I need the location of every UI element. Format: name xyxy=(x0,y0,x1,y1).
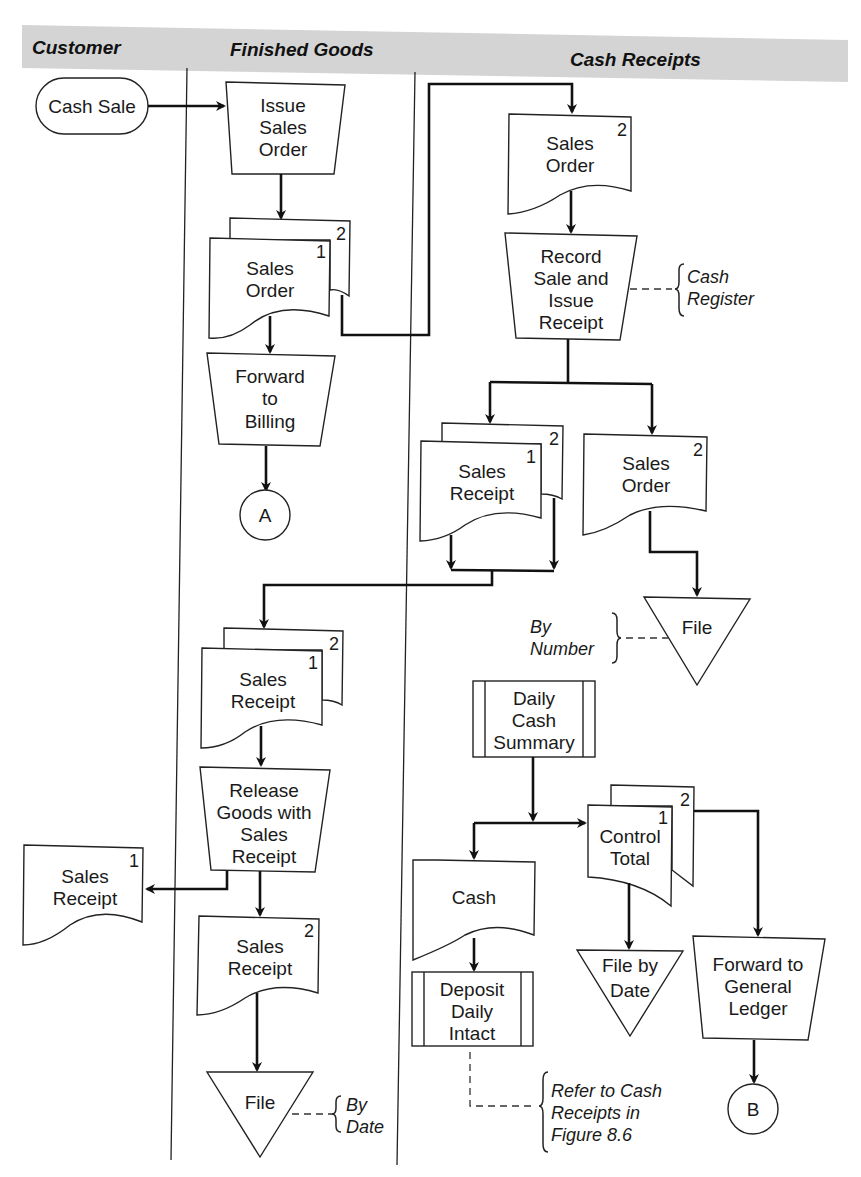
sales-receipt-customer-copy[interactable]: 1 Sales Receipt xyxy=(23,845,143,945)
svg-text:Receipt: Receipt xyxy=(228,958,293,979)
svg-text:File: File xyxy=(682,617,713,638)
svg-text:Ledger: Ledger xyxy=(728,998,788,1019)
svg-text:Sales: Sales xyxy=(622,453,670,474)
svg-text:2: 2 xyxy=(693,440,703,460)
svg-text:Receipt: Receipt xyxy=(231,691,296,712)
lane-title-cash-receipts: Cash Receipts xyxy=(570,49,701,70)
annotation-by-date-line1: By xyxy=(346,1095,368,1115)
annotation-refer-line3: Figure 8.6 xyxy=(551,1125,633,1145)
svg-text:General: General xyxy=(724,976,792,997)
svg-text:Order: Order xyxy=(246,280,295,301)
svg-text:Sales: Sales xyxy=(546,133,594,154)
svg-text:Cash: Cash xyxy=(452,887,496,908)
annotation-by-number-line2: Number xyxy=(530,639,595,659)
svg-text:1: 1 xyxy=(316,242,326,262)
sales-receipt-documents-fg[interactable]: 2 1 Sales Receipt xyxy=(201,628,343,748)
svg-text:Sales: Sales xyxy=(259,117,307,138)
svg-text:File: File xyxy=(245,1092,276,1113)
annotation-refer-line1: Refer to Cash xyxy=(551,1081,662,1101)
sales-receipt-documents-cr[interactable]: 2 1 Sales Receipt xyxy=(420,423,563,541)
cash-sale-terminal[interactable]: Cash Sale xyxy=(36,78,148,134)
svg-text:A: A xyxy=(259,505,272,526)
flow-arrow-to-customer xyxy=(147,871,227,889)
svg-text:1: 1 xyxy=(526,447,536,467)
flow-arrow-to-general-ledger xyxy=(694,811,758,935)
forward-to-billing-process[interactable]: Forward to Billing xyxy=(207,353,335,446)
flow-split-line xyxy=(490,382,652,384)
lane-title-finished-goods: Finished Goods xyxy=(230,39,374,60)
svg-text:B: B xyxy=(747,1099,760,1120)
annotation-line xyxy=(470,1052,536,1106)
annotation-brace xyxy=(675,264,684,316)
svg-text:Sales: Sales xyxy=(61,866,109,887)
annotation-refer-line2: Receipts in xyxy=(551,1103,640,1123)
svg-text:Issue: Issue xyxy=(260,95,305,116)
svg-text:Forward: Forward xyxy=(235,366,305,387)
forward-to-general-ledger-process[interactable]: Forward to General Ledger xyxy=(693,936,825,1040)
off-page-connector-a[interactable]: A xyxy=(240,490,290,540)
svg-text:Receipt: Receipt xyxy=(450,483,515,504)
svg-text:1: 1 xyxy=(308,653,318,673)
release-goods-process[interactable]: Release Goods with Sales Receipt xyxy=(200,767,330,872)
svg-text:Sale and: Sale and xyxy=(533,268,608,289)
flow-arrow-sales-receipt-to-finished-goods xyxy=(264,570,492,627)
svg-text:2: 2 xyxy=(549,429,559,449)
svg-text:Sales: Sales xyxy=(239,669,287,690)
off-page-connector-b[interactable]: B xyxy=(728,1084,778,1134)
svg-text:to: to xyxy=(262,388,278,409)
lane-title-customer: Customer xyxy=(32,37,122,58)
annotation-brace xyxy=(612,613,621,663)
issue-sales-order-process[interactable]: Issue Sales Order xyxy=(226,82,345,174)
svg-text:Cash: Cash xyxy=(512,710,556,731)
sales-order-copy2-doc-b[interactable]: 2 Sales Order xyxy=(583,434,707,535)
control-total-documents[interactable]: 2 1 Control Total xyxy=(588,785,694,906)
svg-text:2: 2 xyxy=(304,921,314,941)
svg-text:Sales: Sales xyxy=(246,258,294,279)
deposit-daily-intact-predefined-process[interactable]: Deposit Daily Intact xyxy=(412,972,533,1046)
svg-text:1: 1 xyxy=(129,851,139,871)
svg-text:Record: Record xyxy=(540,246,601,267)
annotation-brace xyxy=(332,1096,341,1132)
annotation-cash-register-line1: Cash xyxy=(687,267,729,287)
svg-text:2: 2 xyxy=(617,120,627,140)
flowchart-canvas: Customer Finished Goods Cash Receipts Ca… xyxy=(0,0,861,1177)
svg-text:Daily: Daily xyxy=(513,688,556,709)
svg-text:2: 2 xyxy=(680,790,690,810)
svg-text:Control: Control xyxy=(599,826,660,847)
record-sale-issue-receipt-process[interactable]: Record Sale and Issue Receipt xyxy=(505,233,637,340)
svg-text:Order: Order xyxy=(259,139,308,160)
svg-text:Receipt: Receipt xyxy=(539,312,604,333)
svg-text:1: 1 xyxy=(658,808,668,828)
annotation-by-number-line1: By xyxy=(530,617,552,637)
svg-text:Forward to: Forward to xyxy=(713,954,804,975)
svg-text:Goods with: Goods with xyxy=(216,802,311,823)
sales-order-documents[interactable]: 2 1 Sales Order xyxy=(209,218,350,338)
flow-arrow xyxy=(650,511,697,595)
svg-text:File by: File by xyxy=(602,955,658,976)
annotation-cash-register-line2: Register xyxy=(687,289,755,309)
file-by-number[interactable]: File xyxy=(644,597,750,685)
svg-text:Sales: Sales xyxy=(236,936,284,957)
lane-divider-customer-finished-goods xyxy=(171,68,187,1160)
svg-text:Billing: Billing xyxy=(245,411,296,432)
svg-text:Order: Order xyxy=(546,155,595,176)
svg-text:Intact: Intact xyxy=(449,1023,496,1044)
svg-text:Receipt: Receipt xyxy=(53,888,118,909)
svg-text:Sales: Sales xyxy=(240,824,288,845)
annotation-brace xyxy=(539,1072,548,1152)
svg-text:Date: Date xyxy=(610,980,650,1001)
lane-header-band: Customer Finished Goods Cash Receipts xyxy=(22,25,848,82)
svg-text:Daily: Daily xyxy=(451,1001,494,1022)
sales-order-copy2-doc[interactable]: 2 Sales Order xyxy=(508,114,631,214)
annotation-by-date-line2: Date xyxy=(346,1117,384,1137)
svg-text:Total: Total xyxy=(610,848,650,869)
svg-text:Summary: Summary xyxy=(493,732,575,753)
svg-text:Issue: Issue xyxy=(548,290,593,311)
flow-merge-line xyxy=(451,570,554,571)
svg-text:Receipt: Receipt xyxy=(232,846,297,867)
file-by-date-cr[interactable]: File by Date xyxy=(577,950,683,1036)
svg-text:2: 2 xyxy=(336,224,346,244)
svg-text:Release: Release xyxy=(229,780,299,801)
daily-cash-summary-predefined-process[interactable]: Daily Cash Summary xyxy=(473,681,595,757)
svg-text:Order: Order xyxy=(622,475,671,496)
